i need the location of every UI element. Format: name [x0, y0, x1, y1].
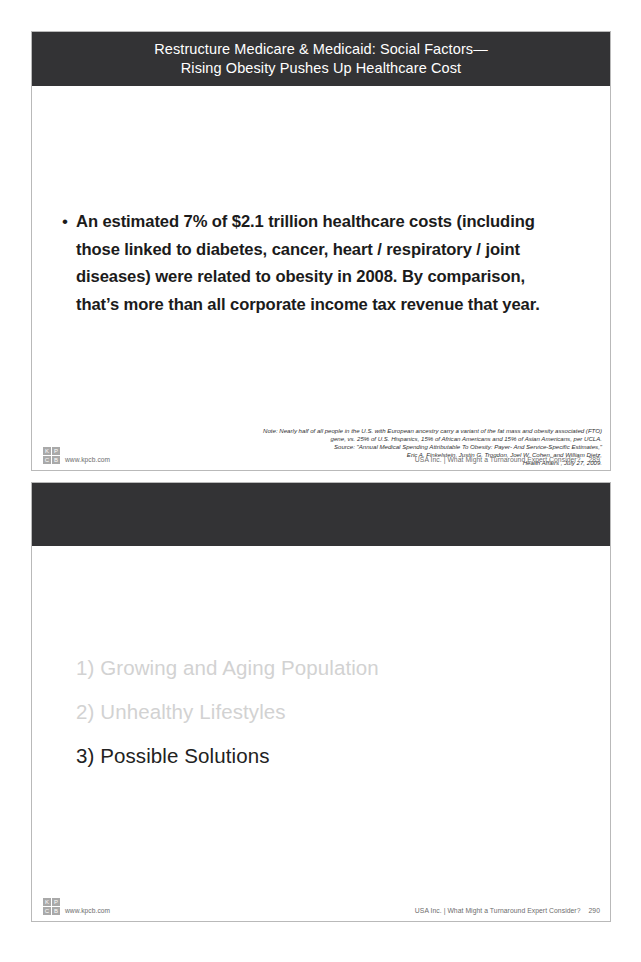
page-number: 290	[589, 907, 601, 914]
footnote-line-2: gene, vs. 25% of U.S. Hispanics, 15% of …	[170, 435, 602, 443]
kpcb-logo-icon: K P C B	[43, 447, 60, 464]
page-number: 289	[589, 456, 601, 463]
agenda-item-2[interactable]: 2) Unhealthy Lifestyles	[76, 690, 546, 734]
scanned-page: Restructure Medicare & Medicaid: Social …	[0, 0, 641, 962]
deck-title: USA Inc. | What Might a Turnaround Exper…	[415, 907, 581, 914]
kpcb-logo-cell-p: P	[52, 447, 60, 455]
kpcb-logo-cell-b: B	[52, 907, 60, 915]
slide-2-footer: K P C B www.kpcb.com USA Inc. | What Mig…	[32, 895, 610, 921]
agenda-item-3[interactable]: 3) Possible Solutions	[76, 734, 546, 778]
footnote-line-1: Note: Nearly half of all people in the U…	[170, 427, 602, 435]
kpcb-logo-icon: K P C B	[43, 898, 60, 915]
slide-1: Restructure Medicare & Medicaid: Social …	[31, 31, 611, 471]
kpcb-logo-cell-b: B	[52, 456, 60, 464]
agenda-list: 1) Growing and Aging Population 2) Unhea…	[76, 646, 546, 778]
kpcb-logo-cell-k: K	[43, 447, 51, 455]
bullet-text: An estimated 7% of $2.1 trillion healthc…	[76, 208, 572, 318]
agenda-item-1[interactable]: 1) Growing and Aging Population	[76, 646, 546, 690]
slide-2-title-bar	[32, 483, 610, 546]
kpcb-website-link[interactable]: www.kpcb.com	[65, 456, 110, 463]
kpcb-logo-cell-c: C	[43, 456, 51, 464]
slide-1-body: • An estimated 7% of $2.1 trillion healt…	[32, 86, 610, 470]
bullet-item: • An estimated 7% of $2.1 trillion healt…	[62, 208, 572, 318]
slide-2-footer-right: USA Inc. | What Might a Turnaround Exper…	[415, 907, 600, 914]
kpcb-logo-cell-k: K	[43, 898, 51, 906]
kpcb-website-link[interactable]: www.kpcb.com	[65, 907, 110, 914]
bullet-dot-icon: •	[62, 208, 76, 236]
bullet-block: • An estimated 7% of $2.1 trillion healt…	[62, 208, 572, 318]
slide-1-title: Restructure Medicare & Medicaid: Social …	[154, 40, 488, 78]
slide-1-footer-right: USA Inc. | What Might a Turnaround Exper…	[415, 456, 600, 463]
slide-2: 1) Growing and Aging Population 2) Unhea…	[31, 482, 611, 922]
slide-1-footer: K P C B www.kpcb.com USA Inc. | What Mig…	[32, 444, 610, 470]
deck-title: USA Inc. | What Might a Turnaround Exper…	[415, 456, 581, 463]
slide-1-title-bar: Restructure Medicare & Medicaid: Social …	[32, 32, 610, 86]
kpcb-logo-cell-c: C	[43, 907, 51, 915]
kpcb-logo-cell-p: P	[52, 898, 60, 906]
